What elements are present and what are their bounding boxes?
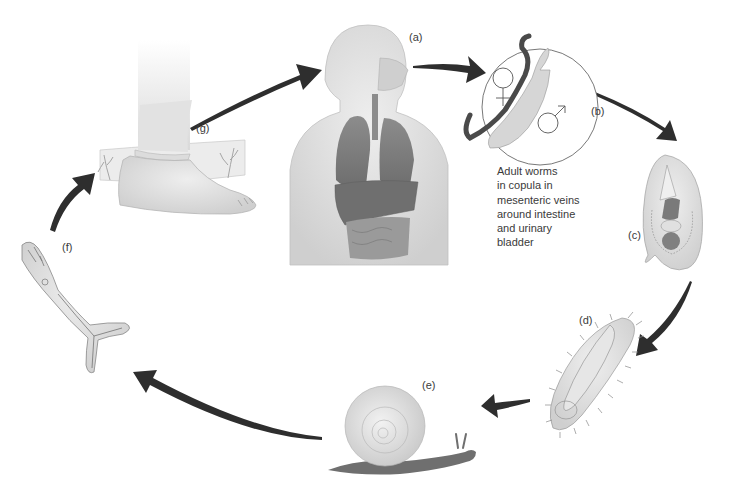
stage-label-e: (e)	[422, 380, 435, 391]
caption-line: mesenteric veins	[497, 193, 607, 207]
caption-line: bladder	[497, 235, 607, 249]
arrow-g-to-a	[190, 64, 322, 131]
snail-illustration	[328, 386, 476, 475]
cercaria-illustration	[22, 242, 130, 373]
stage-label-g: (g)	[196, 123, 209, 134]
foot-in-water-illustration	[98, 40, 256, 214]
caption-line: around intestine	[497, 207, 607, 221]
stage-label-a: (a)	[409, 32, 422, 43]
life-cycle-diagram: (a) (b) (c) (d) (e) (f) (g) Adult worms …	[0, 0, 738, 493]
stage-label-b: (b)	[591, 106, 604, 117]
caption-line: in copula in	[497, 178, 607, 192]
arrow-f-to-g	[50, 173, 95, 232]
stage-label-d: (d)	[579, 315, 592, 326]
arrow-a-to-b	[413, 56, 486, 83]
miracidium-illustration	[545, 312, 644, 438]
caption-line: and urinary	[497, 221, 607, 235]
arrow-c-to-d	[636, 281, 692, 356]
adult-worms-illustration	[466, 36, 598, 165]
stage-label-f: (f)	[62, 242, 72, 253]
human-host-illustration	[290, 25, 448, 265]
arrow-b-to-c	[594, 92, 677, 141]
adult-worms-caption: Adult worms in copula in mesenteric vein…	[497, 164, 607, 250]
stage-label-c: (c)	[628, 230, 641, 241]
egg-illustration	[643, 155, 702, 270]
diagram-artwork	[0, 0, 738, 493]
caption-line: Adult worms	[497, 164, 607, 178]
arrow-e-to-f	[133, 370, 322, 440]
arrow-d-to-e	[481, 394, 530, 418]
